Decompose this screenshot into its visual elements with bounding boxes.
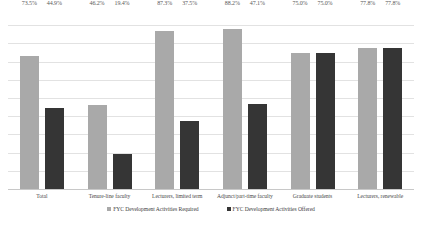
bar[interactable]: 44.9% xyxy=(45,108,64,189)
bar-value-label: 87.3% xyxy=(157,0,172,7)
bar-value-label: 73.5% xyxy=(22,0,37,7)
bar[interactable]: 75.0% xyxy=(291,53,310,189)
bar-column: 77.8% xyxy=(383,8,402,189)
bar-groups: 73.5%44.9%46.2%19.4%87.3%37.5%88.2%47.1%… xyxy=(8,8,414,189)
bar-column: 75.0% xyxy=(316,8,335,189)
bar-chart: 73.5%44.9%46.2%19.4%87.3%37.5%88.2%47.1%… xyxy=(0,0,422,227)
legend-label: FYC Development Activities Required xyxy=(113,205,198,213)
bar-group: 88.2%47.1% xyxy=(211,8,279,189)
bar-value-label: 77.8% xyxy=(385,0,400,7)
category-label-1: Tenure-line faculty xyxy=(76,192,144,204)
bar-value-label: 75.0% xyxy=(318,0,333,7)
bar[interactable]: 46.2% xyxy=(88,105,107,189)
category-label-2: Lecturers, limited term xyxy=(143,192,211,204)
legend-label: FYC Development Activities Offered xyxy=(233,205,315,213)
category-axis-labels: TotalTenure-line facultyLecturers, limit… xyxy=(8,192,414,204)
bar-value-label: 77.8% xyxy=(360,0,375,7)
chart-legend: FYC Development Activities RequiredFYC D… xyxy=(0,205,422,213)
bar-column: 19.4% xyxy=(113,8,132,189)
x-axis-line xyxy=(8,189,414,190)
bar[interactable]: 75.0% xyxy=(316,53,335,189)
plot-area: 73.5%44.9%46.2%19.4%87.3%37.5%88.2%47.1%… xyxy=(8,8,414,190)
bar-value-label: 44.9% xyxy=(47,0,62,7)
bar-column: 87.3% xyxy=(155,8,174,189)
bar-value-label: 19.4% xyxy=(115,0,130,7)
bar-value-label: 75.0% xyxy=(293,0,308,7)
bar[interactable]: 37.5% xyxy=(180,121,199,189)
legend-swatch-icon xyxy=(227,207,231,211)
bar[interactable]: 88.2% xyxy=(223,29,242,189)
bar-column: 46.2% xyxy=(88,8,107,189)
bar-group: 46.2%19.4% xyxy=(76,8,144,189)
bar-column: 44.9% xyxy=(45,8,64,189)
bar-value-label: 46.2% xyxy=(90,0,105,7)
bar-group: 73.5%44.9% xyxy=(8,8,76,189)
bar-group: 87.3%37.5% xyxy=(143,8,211,189)
bar[interactable]: 77.8% xyxy=(358,48,377,189)
bar-column: 88.2% xyxy=(223,8,242,189)
legend-swatch-icon xyxy=(107,207,111,211)
bar-value-label: 37.5% xyxy=(182,0,197,7)
bar-value-label: 47.1% xyxy=(250,0,265,7)
bar-group: 75.0%75.0% xyxy=(279,8,347,189)
bar-column: 47.1% xyxy=(248,8,267,189)
category-label-5: Lecturers, renewable xyxy=(346,192,414,204)
category-label-0: Total xyxy=(8,192,76,204)
bar[interactable]: 87.3% xyxy=(155,31,174,189)
legend-item-1[interactable]: FYC Development Activities Offered xyxy=(227,205,315,213)
category-label-3: Adjunct/part-time faculty xyxy=(211,192,279,204)
bar-column: 37.5% xyxy=(180,8,199,189)
legend-item-0[interactable]: FYC Development Activities Required xyxy=(107,205,198,213)
bar-group: 77.8%77.8% xyxy=(346,8,414,189)
category-label-4: Graduate students xyxy=(279,192,347,204)
bar-value-label: 88.2% xyxy=(225,0,240,7)
bar[interactable]: 77.8% xyxy=(383,48,402,189)
bar[interactable]: 73.5% xyxy=(20,56,39,189)
bar-column: 77.8% xyxy=(358,8,377,189)
bar[interactable]: 47.1% xyxy=(248,104,267,189)
bar[interactable]: 19.4% xyxy=(113,154,132,189)
bar-column: 75.0% xyxy=(291,8,310,189)
bar-column: 73.5% xyxy=(20,8,39,189)
